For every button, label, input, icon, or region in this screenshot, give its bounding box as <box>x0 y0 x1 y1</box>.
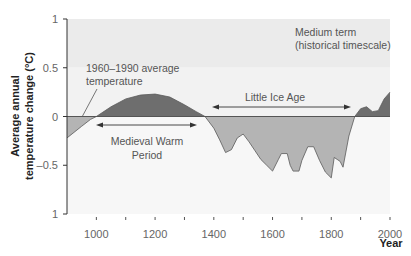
x-axis-label: Year <box>379 237 403 249</box>
x-tick-label: 1400 <box>202 228 226 240</box>
y-axis-label-line1: Average annual <box>9 75 21 157</box>
y-tick-label: 1 <box>52 13 58 25</box>
timescale-annotation-line2: (historical timescale) <box>295 39 391 51</box>
timescale-annotation-line1: Medium term <box>295 26 357 38</box>
y-tick-label: 0 <box>52 111 58 123</box>
x-tick-label: 1200 <box>143 228 167 240</box>
y-tick-label: –0.5 <box>37 159 58 171</box>
y-tick-label: 0.5 <box>43 62 58 74</box>
x-tick-label: 1000 <box>84 228 108 240</box>
baseline-annotation-line1: 1960–1990 average <box>86 62 180 74</box>
lia-annotation: Little Ice Age <box>245 91 305 103</box>
baseline-annotation-line2: temperature <box>86 75 143 87</box>
y-axis-label-line2: temperature change (°C) <box>23 52 35 180</box>
temperature-chart: 10.50–0.51100012001400160018002000 Avera… <box>0 0 411 256</box>
mwp-annotation-line2: Period <box>132 149 163 161</box>
mwp-annotation-line1: Medieval Warm <box>111 135 184 147</box>
y-tick-label: 1 <box>52 208 58 220</box>
x-tick-label: 1800 <box>319 228 343 240</box>
x-tick-label: 1600 <box>260 228 284 240</box>
